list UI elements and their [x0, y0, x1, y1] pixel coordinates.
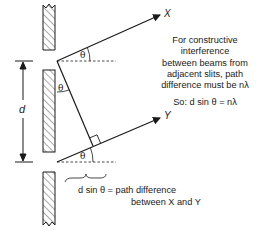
angle-arc-lower	[91, 148, 94, 162]
slit-spacing-label: d	[19, 103, 25, 115]
note-line: adjacent slits, path	[146, 69, 264, 80]
grating-bar-middle	[43, 70, 55, 152]
grating-bar-bottom	[43, 172, 55, 226]
caption-line: between X and Y	[78, 196, 238, 208]
ray-y	[57, 118, 160, 162]
path-difference-caption: d sin θ = path difference between X and …	[78, 184, 238, 208]
angle-label-lower: θ	[80, 151, 85, 161]
path-difference-brace	[65, 174, 106, 182]
caption-line: d sin θ = path difference	[78, 184, 238, 196]
angle-arc-upper	[88, 48, 91, 61]
note-line: difference must be nλ	[146, 80, 264, 91]
constructive-interference-note: For constructive interference between be…	[146, 35, 264, 109]
grating-equation: So: d sin θ = nλ	[146, 97, 264, 108]
grating-bar-top	[43, 4, 55, 50]
angle-label-middle: θ	[58, 83, 63, 93]
note-line: For constructive	[146, 35, 264, 46]
ray-y-label: Y	[164, 110, 171, 121]
angle-label-upper: θ	[80, 50, 85, 60]
perpendicular-line	[57, 61, 93, 146]
note-line: between beams from	[146, 58, 264, 69]
note-line: interference	[146, 46, 264, 57]
ray-x	[57, 15, 160, 61]
ray-x-label: X	[164, 8, 171, 19]
